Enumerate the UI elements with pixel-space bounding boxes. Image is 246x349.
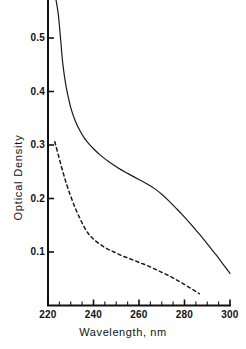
y-tick-label: 0.2 (21, 194, 45, 204)
y-tick-label: 0.4 (21, 87, 45, 97)
series-dashed-curve (55, 142, 199, 294)
x-tick-label: 300 (218, 310, 242, 320)
x-tick-label: 280 (173, 310, 197, 320)
series-solid-curve (56, 0, 230, 273)
data-series-layer (55, 0, 230, 294)
y-tick-label: 0.1 (21, 247, 45, 257)
optical-density-plot (0, 0, 246, 349)
chart-figure: 220240260280300 0.10.20.30.40.5 Waveleng… (0, 0, 246, 349)
x-tick-label: 240 (82, 310, 106, 320)
axis-lines (47, 0, 231, 306)
x-tick-label: 220 (36, 310, 60, 320)
y-tick-label: 0.5 (21, 33, 45, 43)
y-axis-title: Optical Density (13, 98, 24, 258)
y-tick-label: 0.3 (21, 140, 45, 150)
x-axis-title: Wavelength, nm (0, 327, 246, 338)
x-tick-label: 260 (127, 310, 151, 320)
